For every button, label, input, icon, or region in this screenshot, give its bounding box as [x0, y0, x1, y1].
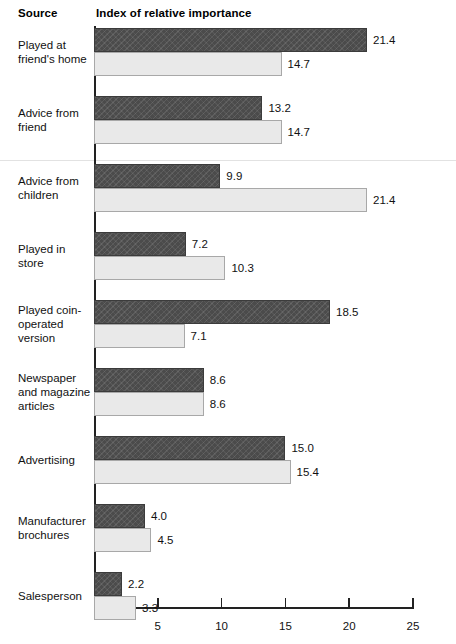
bar-chart: Source Index of relative importance 5101…: [0, 0, 456, 644]
bar-value-light: 7.1: [191, 324, 207, 348]
x-axis-tick-label: 20: [343, 620, 356, 632]
bar-light: [94, 188, 367, 212]
category-label-line: version: [18, 331, 94, 345]
bar-value-light: 14.7: [288, 52, 310, 76]
bar-value-light: 8.6: [210, 392, 226, 416]
category-label-line: friend's home: [18, 52, 94, 66]
category-label: Played instore: [18, 242, 94, 270]
category-label: Advice fromchildren: [18, 174, 94, 202]
category-label-line: Played at: [18, 38, 94, 52]
scan-artifact-line: [0, 160, 456, 161]
bar-dark: [94, 368, 204, 392]
category-label-line: Salesperson: [18, 589, 94, 603]
x-axis-tick-label: 15: [279, 620, 292, 632]
bar-dark: [94, 96, 262, 120]
category-label-line: Played coin-: [18, 303, 94, 317]
bar-value-light: 14.7: [288, 120, 310, 144]
category-label-line: brochures: [18, 528, 94, 542]
bar-value-dark: 13.2: [268, 96, 290, 120]
bar-dark: [94, 28, 367, 52]
bar-light: [94, 120, 282, 144]
category-label: Salesperson: [18, 589, 94, 603]
bar-dark: [94, 504, 145, 528]
bar-value-dark: 9.9: [226, 164, 242, 188]
category-label-line: Advertising: [18, 453, 94, 467]
category-label: Played coin-operatedversion: [18, 303, 94, 345]
category-label-line: operated: [18, 317, 94, 331]
category-label-line: articles: [18, 399, 94, 413]
x-axis-tick-label: 10: [215, 620, 228, 632]
bar-light: [94, 392, 204, 416]
x-axis-tick: [412, 598, 414, 607]
category-label-line: Newspaper: [18, 371, 94, 385]
category-label-line: children: [18, 188, 94, 202]
bar-dark: [94, 164, 220, 188]
category-label: Played atfriend's home: [18, 38, 94, 66]
bar-value-light: 4.5: [157, 528, 173, 552]
category-label: Advertising: [18, 453, 94, 467]
bar-light: [94, 52, 282, 76]
x-axis-tick-label: 25: [407, 620, 420, 632]
x-axis-tick-label: 5: [155, 620, 161, 632]
bar-value-dark: 7.2: [192, 232, 208, 256]
bar-light: [94, 256, 225, 280]
bar-value-dark: 18.5: [336, 300, 358, 324]
bar-value-dark: 2.2: [128, 572, 144, 596]
bar-light: [94, 596, 136, 620]
category-label: Advice fromfriend: [18, 106, 94, 134]
bar-value-light: 10.3: [231, 256, 253, 280]
column-header-index: Index of relative importance: [96, 7, 252, 19]
category-label-line: friend: [18, 120, 94, 134]
x-axis-tick: [285, 598, 287, 607]
bar-dark: [94, 300, 330, 324]
bar-light: [94, 324, 185, 348]
category-label: Manufacturerbrochures: [18, 514, 94, 542]
bar-dark: [94, 436, 285, 460]
bar-light: [94, 528, 151, 552]
bar-value-dark: 21.4: [373, 28, 395, 52]
bar-value-dark: 4.0: [151, 504, 167, 528]
category-label-line: Advice from: [18, 174, 94, 188]
bar-dark: [94, 232, 186, 256]
bar-value-light: 15.4: [297, 460, 319, 484]
column-header-source: Source: [18, 7, 58, 19]
category-label-line: Played in: [18, 242, 94, 256]
category-label-line: and magazine: [18, 385, 94, 399]
category-label-line: store: [18, 256, 94, 270]
bar-light: [94, 460, 291, 484]
bar-dark: [94, 572, 122, 596]
bar-value-light: 3.3: [142, 596, 158, 620]
bar-value-dark: 8.6: [210, 368, 226, 392]
bar-value-dark: 15.0: [291, 436, 313, 460]
category-label: Newspaperand magazinearticles: [18, 371, 94, 413]
category-label-line: Manufacturer: [18, 514, 94, 528]
x-axis-tick: [348, 598, 350, 607]
x-axis-tick: [221, 598, 223, 607]
bar-value-light: 21.4: [373, 188, 395, 212]
category-label-line: Advice from: [18, 106, 94, 120]
